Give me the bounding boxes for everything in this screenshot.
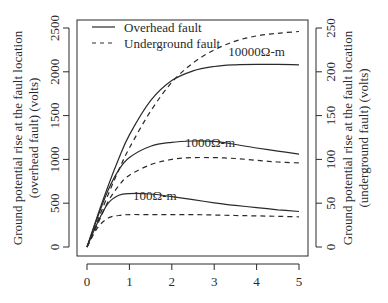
y-axis-label-right-line1: Ground potential rise at the fault locat… xyxy=(340,30,355,245)
x-tick-label: 4 xyxy=(253,274,260,289)
legend-label: Underground fault xyxy=(124,36,221,51)
y-axis-right: 050100150200250 xyxy=(316,18,338,250)
curve-label-2: 100Ω-m xyxy=(133,188,177,203)
y2-tick-label: 150 xyxy=(323,106,338,126)
legend-label: Overhead fault xyxy=(124,20,202,35)
y-tick-label: 1000 xyxy=(47,146,62,172)
series-line-0 xyxy=(87,193,299,247)
y-axis-label-left-line2: (overhead fault) (volts) xyxy=(26,78,41,199)
y-axis-left: 05001000150020002500 xyxy=(47,15,69,250)
curve-label-0: 10000Ω-m xyxy=(228,44,285,59)
y-tick-label: 2000 xyxy=(47,59,62,85)
x-tick-label: 2 xyxy=(169,274,176,289)
y2-tick-label: 250 xyxy=(323,18,338,38)
y2-tick-label: 100 xyxy=(323,150,338,170)
y-tick-label: 0 xyxy=(47,244,62,251)
x-tick-label: 3 xyxy=(211,274,218,289)
chart-container: 012345 05001000150020002500 050100150200… xyxy=(0,0,388,303)
y-axis-label-right-line2: (underground fault) (volts) xyxy=(356,68,371,207)
series-line-2 xyxy=(87,64,299,247)
y2-tick-label: 0 xyxy=(323,244,338,251)
y-tick-label: 500 xyxy=(47,193,62,213)
y-axis-label-left-line1: Ground potential rise at the fault locat… xyxy=(10,30,25,245)
curve-label-1: 1000Ω-m xyxy=(185,135,235,150)
y-tick-label: 1500 xyxy=(47,103,62,129)
legend: Overhead faultUnderground fault xyxy=(92,20,221,51)
y2-tick-label: 50 xyxy=(323,197,338,210)
x-tick-label: 0 xyxy=(84,274,91,289)
y2-tick-label: 200 xyxy=(323,62,338,82)
y-tick-label: 2500 xyxy=(47,15,62,41)
x-tick-label: 1 xyxy=(126,274,133,289)
series-line-1 xyxy=(87,141,299,247)
x-tick-label: 5 xyxy=(296,274,303,289)
series-line-3 xyxy=(87,215,299,247)
x-axis: 012345 xyxy=(84,264,303,289)
line-chart: 012345 05001000150020002500 050100150200… xyxy=(0,0,388,303)
